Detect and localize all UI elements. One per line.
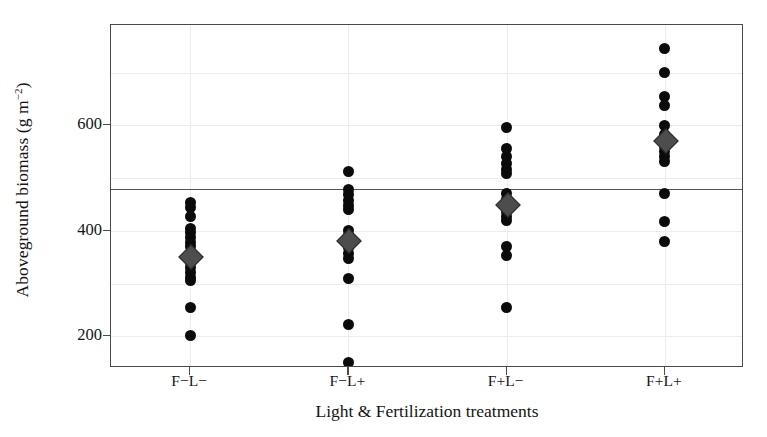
y-axis-tick-label: 400 — [56, 220, 102, 240]
y-axis-title-container: Aboveground biomass (g m−2) — [0, 0, 46, 380]
x-axis-tick-label-0: F−L− — [171, 372, 207, 390]
plot-area — [110, 24, 743, 367]
y-axis-title: Aboveground biomass (g m−2) — [12, 82, 34, 297]
gridline-horizontal — [111, 284, 742, 285]
group-mean-marker — [653, 128, 678, 153]
data-point — [185, 211, 196, 222]
data-point — [659, 216, 670, 227]
y-axis-tick-labels: 200400600 — [46, 0, 102, 437]
data-point — [659, 188, 670, 199]
data-point — [185, 275, 196, 286]
y-axis-tick-label: 200 — [56, 325, 102, 345]
data-point — [659, 67, 670, 78]
data-point — [659, 100, 670, 111]
x-axis-tick-label-1: F−L+ — [330, 372, 366, 390]
data-point — [343, 319, 354, 330]
gridline-horizontal — [111, 73, 742, 74]
group-mean-marker — [178, 244, 203, 269]
gridline-horizontal — [111, 231, 742, 232]
reference-line — [111, 189, 742, 190]
y-axis-title-exponent: −2 — [12, 88, 24, 100]
group-mean-marker — [495, 193, 520, 218]
gridline-horizontal — [111, 178, 742, 179]
gridline-vertical — [190, 25, 191, 366]
x-axis-title: Light & Fertilization treatments — [110, 401, 744, 422]
biomass-scatter-figure: Aboveground biomass (g m−2) 200400600 F−… — [0, 0, 767, 437]
data-point — [185, 302, 196, 313]
data-point — [659, 156, 670, 167]
data-point — [501, 250, 512, 261]
data-point — [185, 330, 196, 341]
y-axis-title-text: Aboveground biomass (g m — [13, 100, 33, 297]
data-point — [343, 357, 354, 367]
data-point — [659, 43, 670, 54]
gridline-horizontal — [111, 336, 742, 337]
y-axis-title-suffix: ) — [13, 82, 33, 88]
data-point — [659, 236, 670, 247]
group-mean-marker — [337, 228, 362, 253]
data-point — [343, 204, 354, 215]
x-axis-tick-label-2: F+L− — [488, 372, 524, 390]
data-point — [343, 253, 354, 264]
data-point — [343, 166, 354, 177]
data-point — [501, 122, 512, 133]
y-axis-tick-label: 600 — [56, 114, 102, 134]
gridline-horizontal — [111, 125, 742, 126]
data-point — [343, 273, 354, 284]
data-point — [501, 302, 512, 313]
x-axis-tick-label-3: F+L+ — [646, 372, 682, 390]
